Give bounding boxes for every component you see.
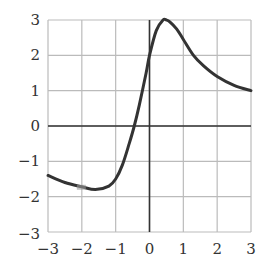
x-tick-label: 0 xyxy=(145,240,155,258)
y-tick-label: −3 xyxy=(18,225,40,243)
line-chart: −3−2−10123 3210−1−2−3 xyxy=(0,0,263,268)
x-tick-label: 3 xyxy=(246,240,256,258)
y-tick-label: 0 xyxy=(30,117,40,135)
y-tick-label: 1 xyxy=(30,82,40,100)
x-tick-label: 2 xyxy=(212,240,222,258)
y-tick-label: −2 xyxy=(18,188,40,206)
y-tick-label: −1 xyxy=(18,152,40,170)
y-axis-tick-labels: 3210−1−2−3 xyxy=(18,11,40,243)
x-tick-label: −3 xyxy=(37,240,59,258)
y-tick-label: 3 xyxy=(30,11,40,29)
x-tick-label: −1 xyxy=(105,240,127,258)
point-marker xyxy=(77,185,86,190)
x-axis-tick-labels: −3−2−10123 xyxy=(37,240,256,258)
x-tick-label: −2 xyxy=(71,240,93,258)
y-tick-label: 2 xyxy=(30,46,40,64)
x-tick-label: 1 xyxy=(179,240,189,258)
